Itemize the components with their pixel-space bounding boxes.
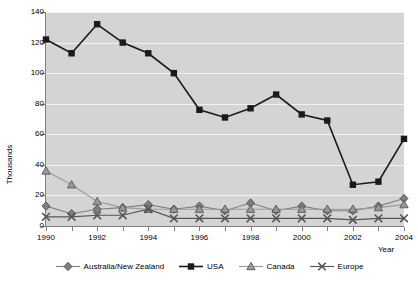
data-point-marker [145,50,151,56]
data-point-marker [273,91,279,97]
legend-item-australia-new-zealand[interactable]: Australia/New Zealand [55,262,164,271]
data-point-marker [67,181,75,188]
legend-item-europe[interactable]: Europe [309,262,364,271]
data-point-marker [350,182,356,188]
data-point-marker [93,197,101,204]
data-point-marker [222,114,228,120]
data-point-marker [68,50,74,56]
series-line [46,24,404,185]
legend-item-usa[interactable]: USA [178,262,223,271]
data-point-marker [400,200,408,207]
data-point-marker [375,178,381,184]
legend-label: USA [207,262,223,271]
data-point-marker [64,262,72,270]
data-point-marker [43,36,49,42]
data-point-marker [188,263,194,269]
series-layer [0,0,418,284]
data-point-marker [401,136,407,142]
data-point-marker [196,107,202,113]
legend-marker-icon [238,262,264,271]
line-chart: 020406080100120140 199019921994199619982… [0,0,418,284]
legend-label: Australia/New Zealand [84,262,164,271]
data-point-marker [247,105,253,111]
data-point-marker [171,70,177,76]
legend-marker-icon [55,262,81,271]
data-point-marker [42,202,50,210]
legend-item-canada[interactable]: Canada [238,262,295,271]
legend-marker-icon [309,262,335,271]
chart-legend: Australia/New ZealandUSACanadaEurope [0,262,418,271]
series-usa [43,21,407,188]
data-point-marker [120,39,126,45]
data-point-marker [299,111,305,117]
legend-label: Canada [267,262,295,271]
legend-label: Europe [338,262,364,271]
data-point-marker [42,167,50,174]
data-point-marker [324,117,330,123]
legend-marker-icon [178,262,204,271]
data-point-marker [94,21,100,27]
